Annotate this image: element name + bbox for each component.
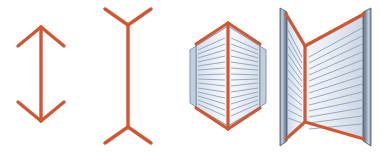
illusion-figure-svg bbox=[0, 0, 386, 153]
figure-panel: Müller-Lyer illusion with book-perspecti… bbox=[0, 0, 386, 153]
fig-4-left-cover bbox=[280, 8, 287, 146]
fig-4-right-cover bbox=[363, 8, 371, 146]
fig-3-right-cover-edge bbox=[260, 46, 266, 107]
fig-3-left-cover-edge bbox=[190, 46, 196, 107]
fig-3-book-closing-edge-view bbox=[190, 23, 266, 129]
